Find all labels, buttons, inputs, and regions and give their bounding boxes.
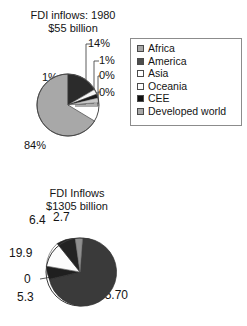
legend-label-america: America xyxy=(148,56,187,68)
legend-item-cee[interactable]: CEE xyxy=(137,93,241,105)
legend-swatch-oceania-icon xyxy=(137,83,144,90)
legend-label-asia: Asia xyxy=(148,68,168,80)
top-chart-title-line1: FDI inflows: 1980 xyxy=(18,9,128,22)
legend-label-cee: CEE xyxy=(148,93,170,105)
fdi-1980-chart: FDI inflows: 1980 $55 billion 14% 1% 0% … xyxy=(0,0,247,163)
legend-label-africa: Africa xyxy=(148,43,175,55)
legend-item-asia[interactable]: Asia xyxy=(137,68,241,80)
legend-item-oceania[interactable]: Oceania xyxy=(137,81,241,93)
top-pie-graphic xyxy=(6,26,136,146)
legend-swatch-asia-icon xyxy=(137,70,144,77)
legend-swatch-america-icon xyxy=(137,58,144,65)
legend-swatch-developed-world-icon xyxy=(137,108,144,115)
bottom-pie-graphic xyxy=(0,199,135,324)
legend-item-developed-world[interactable]: Developed world xyxy=(137,106,241,118)
bottom-pie-slices xyxy=(46,238,117,306)
legend-swatch-africa-icon xyxy=(137,45,144,52)
legend-label-oceania: Oceania xyxy=(148,81,187,93)
fdi-inflows-chart: FDI Inflows $1305 billion 6.4 2.7 19.9 0… xyxy=(0,163,247,326)
legend-label-developed-world: Developed world xyxy=(148,106,226,118)
legend-item-africa[interactable]: Africa xyxy=(137,43,241,55)
top-pie-slices xyxy=(37,74,99,136)
top-chart-legend: Africa America Asia Oceania CEE Develope… xyxy=(130,38,242,126)
legend-swatch-cee-icon xyxy=(137,95,144,102)
legend-item-america[interactable]: America xyxy=(137,56,241,68)
